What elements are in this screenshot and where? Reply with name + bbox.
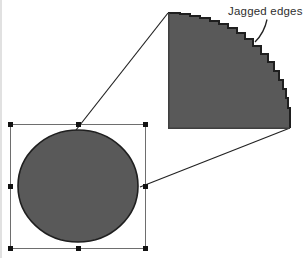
label-pointer-line xyxy=(255,20,267,43)
figure-canvas: Jagged edges xyxy=(0,0,306,258)
selection-handle-bottom-center[interactable] xyxy=(76,246,81,251)
callout-line-bottom xyxy=(140,128,290,187)
selection-handle-bottom-right[interactable] xyxy=(143,246,148,251)
jagged-edges-label: Jagged edges xyxy=(228,5,303,17)
selection-handle-top-center[interactable] xyxy=(76,122,81,127)
selection-handle-middle-left[interactable] xyxy=(8,184,13,189)
selection-handle-top-left[interactable] xyxy=(8,122,13,127)
selected-circle-shape[interactable] xyxy=(18,130,138,242)
magnified-edge-view xyxy=(168,13,290,128)
scan-edge-artifact xyxy=(0,0,2,258)
drawing-area: Jagged edges xyxy=(0,0,306,258)
magnified-quarter-fill xyxy=(168,13,290,128)
selection-handle-bottom-left[interactable] xyxy=(8,246,13,251)
selection-handle-top-right[interactable] xyxy=(143,122,148,127)
selection-handle-middle-right[interactable] xyxy=(143,184,148,189)
callout-line-top xyxy=(76,13,168,130)
